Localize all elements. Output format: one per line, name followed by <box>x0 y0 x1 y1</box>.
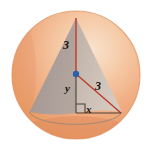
label-horizontal-leg: x <box>86 104 92 115</box>
figure-canvas <box>0 0 151 151</box>
label-slant-radius: 3 <box>95 80 101 92</box>
sphere-left-shading <box>0 0 36 146</box>
sphere-center-point <box>73 71 79 77</box>
geometry-figure: 3 3 y x <box>0 0 151 151</box>
label-height-radius: 3 <box>63 39 69 51</box>
sphere-bottom-shading <box>0 116 151 151</box>
label-vertical-leg: y <box>65 83 70 94</box>
